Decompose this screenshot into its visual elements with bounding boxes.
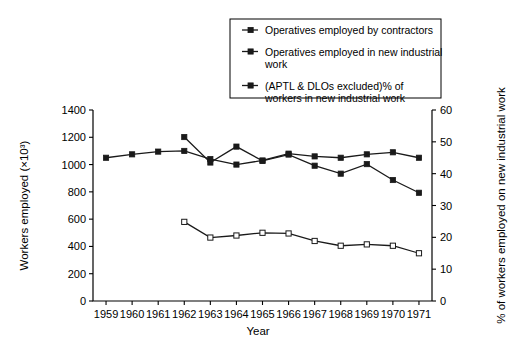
y2-tick-label: 20 bbox=[440, 231, 452, 243]
y2-tick-label: 0 bbox=[440, 295, 446, 307]
y2-tick-label: 40 bbox=[440, 168, 452, 180]
x-tick-label: 1965 bbox=[250, 308, 274, 320]
y-axis-title: Workers employed (×10³) bbox=[18, 140, 30, 270]
legend-label-1: Operatives employed in new industrial bbox=[265, 46, 442, 58]
data-point bbox=[338, 243, 343, 248]
data-point bbox=[312, 154, 317, 159]
y-tick-label: 400 bbox=[68, 240, 86, 252]
data-point bbox=[182, 219, 187, 224]
x-tick-label: 1967 bbox=[302, 308, 326, 320]
legend-label-0: Operatives employed by contractors bbox=[265, 24, 433, 36]
y-tick-label: 1200 bbox=[62, 131, 86, 143]
legend-marker-0 bbox=[248, 27, 253, 32]
data-point bbox=[260, 230, 265, 235]
y2-tick-label: 10 bbox=[440, 263, 452, 275]
y-tick-label: 0 bbox=[80, 295, 86, 307]
line-chart: 0200400600800100012001400010203040506019… bbox=[0, 0, 516, 359]
x-tick-label: 1961 bbox=[146, 308, 170, 320]
data-point bbox=[416, 190, 421, 195]
data-point bbox=[390, 150, 395, 155]
series-2 bbox=[182, 134, 422, 195]
data-point bbox=[416, 155, 421, 160]
y-tick-label: 800 bbox=[68, 186, 86, 198]
data-point bbox=[103, 155, 108, 160]
y2-tick-label: 60 bbox=[440, 104, 452, 116]
data-point bbox=[338, 155, 343, 160]
data-point bbox=[234, 144, 239, 149]
data-point bbox=[234, 233, 239, 238]
axis-left-bottom bbox=[93, 110, 432, 301]
x-tick-label: 1971 bbox=[407, 308, 431, 320]
x-tick-label: 1969 bbox=[355, 308, 379, 320]
series-line-2 bbox=[184, 137, 419, 193]
y-tick-label: 1000 bbox=[62, 159, 86, 171]
x-tick-label: 1970 bbox=[381, 308, 405, 320]
legend-label-2: (APTL & DLOs excluded)% of bbox=[265, 80, 404, 92]
data-point bbox=[208, 160, 213, 165]
series-1 bbox=[182, 219, 422, 256]
x-tick-label: 1964 bbox=[224, 308, 248, 320]
x-tick-label: 1966 bbox=[276, 308, 300, 320]
data-point bbox=[208, 235, 213, 240]
data-point bbox=[260, 158, 265, 163]
data-point bbox=[130, 152, 135, 157]
data-point bbox=[364, 162, 369, 167]
series-0 bbox=[103, 148, 421, 167]
x-tick-label: 1959 bbox=[94, 308, 118, 320]
legend-label-2: workers in new industrial work bbox=[264, 92, 406, 104]
y2-tick-label: 50 bbox=[440, 136, 452, 148]
chart-figure: 0200400600800100012001400010203040506019… bbox=[0, 0, 516, 359]
data-point bbox=[182, 134, 187, 139]
y2-axis-title: % of workers employed on new industrial … bbox=[495, 87, 507, 324]
data-point bbox=[312, 163, 317, 168]
data-point bbox=[286, 152, 291, 157]
legend-marker-2 bbox=[248, 83, 253, 88]
data-point bbox=[364, 152, 369, 157]
data-point bbox=[364, 242, 369, 247]
y2-tick-label: 30 bbox=[440, 200, 452, 212]
y-tick-label: 600 bbox=[68, 213, 86, 225]
legend-label-1: work bbox=[264, 58, 288, 70]
data-point bbox=[390, 243, 395, 248]
data-point bbox=[182, 148, 187, 153]
x-tick-label: 1963 bbox=[198, 308, 222, 320]
data-point bbox=[156, 149, 161, 154]
legend: Operatives employed by contractorsOperat… bbox=[230, 19, 442, 104]
x-tick-label: 1962 bbox=[172, 308, 196, 320]
x-tick-label: 1960 bbox=[120, 308, 144, 320]
x-axis-title: Year bbox=[246, 325, 269, 337]
y-tick-label: 200 bbox=[68, 268, 86, 280]
data-point bbox=[312, 238, 317, 243]
y-tick-label: 1400 bbox=[62, 104, 86, 116]
data-point bbox=[234, 162, 239, 167]
series-line-1 bbox=[184, 222, 419, 253]
legend-marker-1 bbox=[248, 49, 253, 54]
data-point bbox=[286, 231, 291, 236]
x-tick-label: 1968 bbox=[328, 308, 352, 320]
data-point bbox=[338, 171, 343, 176]
data-point bbox=[390, 177, 395, 182]
data-point bbox=[416, 251, 421, 256]
